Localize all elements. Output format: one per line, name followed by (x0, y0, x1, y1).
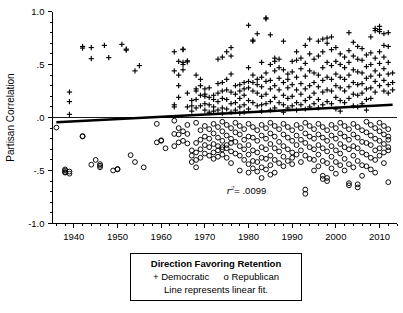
point-marker-plus (119, 42, 124, 47)
point-marker-circle (355, 125, 360, 130)
point-marker-plus (368, 85, 373, 90)
point-marker-circle (272, 146, 277, 151)
point-marker-plus (198, 77, 203, 82)
point-marker-circle (325, 149, 330, 154)
point-marker-circle (250, 135, 255, 140)
point-marker-circle (290, 138, 295, 143)
point-marker-plus (215, 81, 220, 86)
point-marker-plus (272, 95, 277, 100)
point-marker-plus (294, 87, 299, 92)
point-marker-circle (364, 119, 369, 124)
point-marker-circle (316, 132, 321, 137)
point-marker-plus (368, 34, 373, 39)
point-marker-plus (320, 78, 325, 83)
x-tick-label: 1970 (194, 231, 215, 242)
point-marker-circle (202, 124, 207, 129)
point-marker-plus (381, 43, 386, 48)
point-marker-circle (303, 131, 308, 136)
point-marker-circle (281, 164, 286, 169)
point-marker-circle (268, 142, 273, 147)
point-marker-plus (276, 76, 281, 81)
point-marker-circle (255, 128, 260, 133)
point-marker-plus (359, 70, 364, 75)
x-tick-label: 1980 (238, 231, 259, 242)
point-marker-circle (373, 158, 378, 163)
point-marker-plus (198, 93, 203, 98)
point-marker-circle (277, 149, 282, 154)
circle-marker-icon: o (224, 271, 229, 282)
point-marker-circle (333, 148, 338, 153)
legend-label-republican: Republican (231, 271, 279, 282)
point-marker-circle (329, 123, 334, 128)
series-republican (54, 118, 391, 196)
point-marker-circle (172, 144, 177, 149)
point-marker-circle (237, 144, 242, 149)
point-marker-circle (185, 132, 190, 137)
point-marker-circle (316, 121, 321, 126)
point-marker-circle (54, 125, 59, 130)
point-marker-circle (233, 120, 238, 125)
point-marker-plus (228, 71, 233, 76)
point-marker-circle (185, 123, 190, 128)
point-marker-circle (220, 119, 225, 124)
point-marker-plus (381, 54, 386, 59)
point-marker-circle (229, 161, 234, 166)
point-marker-circle (172, 118, 177, 123)
point-marker-plus (189, 98, 194, 103)
point-marker-plus (325, 41, 330, 46)
point-marker-circle (207, 145, 212, 150)
point-marker-plus (294, 75, 299, 80)
point-marker-plus (255, 103, 260, 108)
point-marker-plus (172, 68, 177, 73)
point-marker-plus (246, 65, 251, 70)
point-marker-plus (237, 96, 242, 101)
point-marker-plus (281, 93, 286, 98)
point-marker-plus (316, 53, 321, 58)
point-marker-plus (307, 95, 312, 100)
point-marker-plus (303, 43, 308, 48)
point-marker-circle (264, 156, 269, 161)
point-marker-plus (364, 86, 369, 91)
point-marker-plus (377, 73, 382, 78)
point-marker-circle (312, 168, 317, 173)
point-marker-circle (316, 143, 321, 148)
legend-title: Direction Favoring Retention (137, 257, 295, 270)
point-marker-plus (67, 112, 72, 117)
point-marker-circle (224, 146, 229, 151)
point-marker-plus (176, 83, 181, 88)
point-marker-plus (263, 15, 268, 20)
point-marker-circle (264, 167, 269, 172)
y-tick-label: 1.0 (31, 6, 44, 17)
point-marker-circle (216, 135, 221, 140)
point-marker-plus (386, 44, 391, 49)
point-marker-plus (320, 49, 325, 54)
series-democratic (67, 15, 395, 117)
point-marker-plus (285, 77, 290, 82)
point-marker-plus (333, 95, 338, 100)
point-marker-circle (281, 144, 286, 149)
point-marker-plus (89, 56, 94, 61)
point-marker-circle (272, 170, 277, 175)
point-marker-circle (198, 128, 203, 133)
point-marker-plus (220, 96, 225, 101)
legend-entries: + Democratic o Republican (137, 270, 295, 283)
point-marker-plus (303, 98, 308, 103)
y-tick-label: .0 (37, 112, 45, 123)
point-marker-plus (381, 66, 386, 71)
point-marker-circle (333, 171, 338, 176)
plus-marker-icon: + (153, 271, 159, 282)
point-marker-plus (329, 88, 334, 93)
point-marker-circle (355, 159, 360, 164)
point-marker-plus (67, 99, 72, 104)
point-marker-plus (303, 74, 308, 79)
point-marker-circle (194, 141, 199, 146)
point-marker-circle (259, 123, 264, 128)
point-marker-plus (290, 59, 295, 64)
point-marker-circle (198, 147, 203, 152)
point-marker-circle (237, 124, 242, 129)
y-tick-label: .5 (37, 59, 45, 70)
point-marker-circle (255, 138, 260, 143)
point-marker-circle (312, 147, 317, 152)
chart-figure: 1.0.5.0-.5-1.019401950196019701980199020… (0, 0, 403, 313)
point-marker-circle (211, 131, 216, 136)
